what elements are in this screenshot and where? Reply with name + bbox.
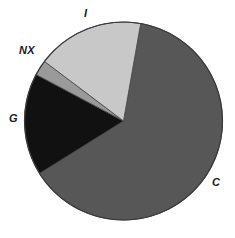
pie-label-i: I — [84, 8, 87, 19]
pie-slice-group — [24, 22, 222, 220]
pie-chart-svg — [0, 0, 235, 238]
pie-label-g: G — [9, 113, 18, 124]
pie-chart-figure: I NX G C — [0, 0, 235, 238]
pie-label-c: C — [212, 177, 220, 188]
pie-label-nx: NX — [19, 45, 35, 56]
